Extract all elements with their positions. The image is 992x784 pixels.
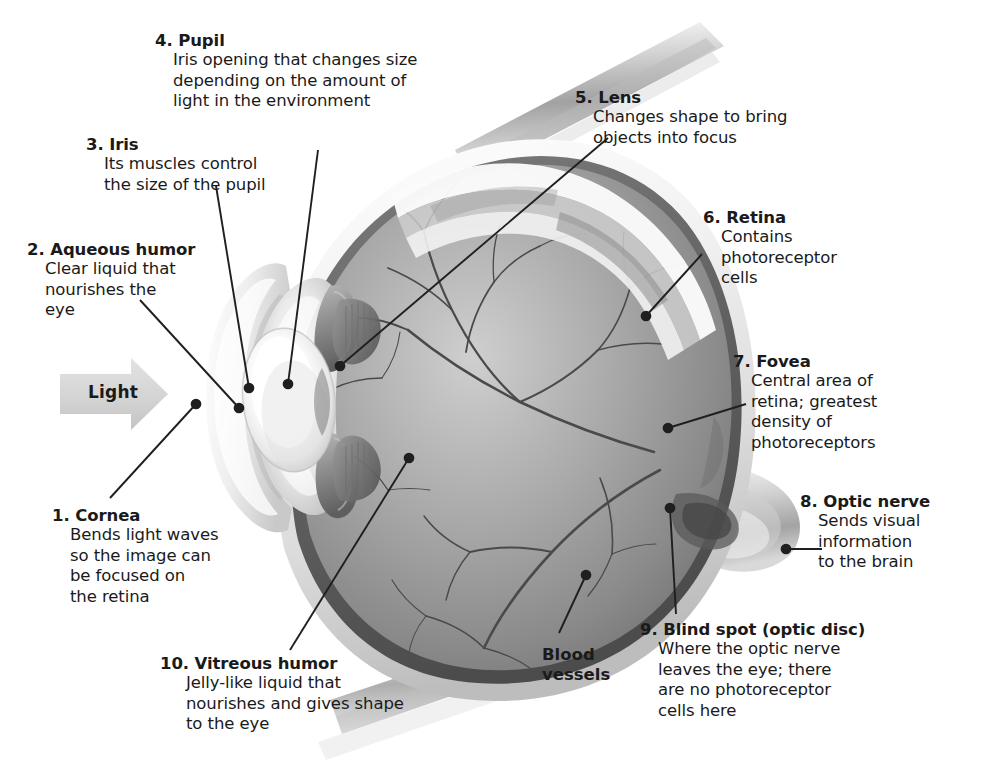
callout-lens-body: Changes shape to bring objects into focu… (593, 107, 787, 148)
callout-vitreous-humor: 10. Vitreous humor Jelly-like liquid tha… (160, 654, 404, 735)
callout-pupil-title: 4. Pupil (155, 31, 417, 50)
callout-vitreous-humor-body: Jelly-like liquid that nourishes and giv… (186, 673, 404, 735)
callout-optic-nerve-title: 8. Optic nerve (800, 492, 930, 511)
callout-retina-title: 6. Retina (703, 208, 837, 227)
callout-iris: 3. Iris Its muscles control the size of … (86, 135, 266, 195)
callout-cornea-body: Bends light waves so the image can be fo… (70, 525, 218, 607)
callout-optic-nerve-body: Sends visual information to the brain (818, 511, 930, 573)
callout-fovea: 7. Fovea Central area of retina; greates… (733, 352, 877, 453)
callout-fovea-body: Central area of retina; greatest density… (751, 371, 877, 453)
callout-blind-spot: 9. Blind spot (optic disc) Where the opt… (640, 620, 865, 721)
callout-blind-spot-body: Where the optic nerve leaves the eye; th… (658, 639, 865, 721)
eye-anatomy-diagram: Light 4. Pupil Iris opening that changes… (0, 0, 992, 784)
callout-pupil: 4. Pupil Iris opening that changes size … (155, 31, 417, 112)
callout-aqueous-humor: 2. Aqueous humor Clear liquid that nouri… (27, 240, 195, 321)
callout-iris-title: 3. Iris (86, 135, 266, 154)
callout-optic-nerve: 8. Optic nerve Sends visual information … (800, 492, 930, 573)
callout-fovea-title: 7. Fovea (733, 352, 877, 371)
callout-cornea: 1. Cornea Bends light waves so the image… (52, 506, 218, 607)
callout-retina: 6. Retina Contains photoreceptor cells (703, 208, 837, 289)
label-blood-vessels: Blood vessels (542, 645, 610, 685)
callout-lens-title: 5. Lens (575, 88, 787, 107)
callout-iris-body: Its muscles control the size of the pupi… (104, 154, 266, 195)
callout-cornea-title: 1. Cornea (52, 506, 218, 525)
callout-lens: 5. Lens Changes shape to bring objects i… (575, 88, 787, 148)
light-arrow-label: Light (88, 382, 138, 402)
callout-aqueous-humor-title: 2. Aqueous humor (27, 240, 195, 259)
callout-retina-body: Contains photoreceptor cells (721, 227, 837, 289)
callout-aqueous-humor-body: Clear liquid that nourishes the eye (45, 259, 195, 321)
callout-pupil-body: Iris opening that changes size depending… (173, 50, 417, 112)
callout-blind-spot-title: 9. Blind spot (optic disc) (640, 620, 865, 639)
callout-vitreous-humor-title: 10. Vitreous humor (160, 654, 404, 673)
